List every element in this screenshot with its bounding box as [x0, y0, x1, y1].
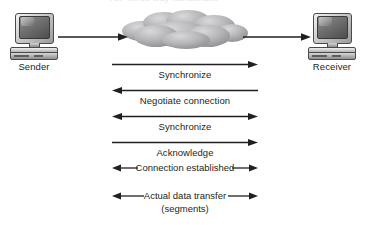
- figure-title-clipped: TCP three-way handshake: [0, 0, 369, 7]
- message-row-2: Negotiate connection: [112, 86, 258, 106]
- floppy-drive-slot: [312, 55, 327, 57]
- message-row-1: Synchronize: [112, 60, 258, 80]
- cd-drive-slot: [34, 55, 43, 57]
- message-label-4: Acknowledge: [112, 147, 258, 158]
- arrow-left-icon: [112, 86, 258, 95]
- network-cloud-icon: [120, 8, 248, 52]
- cd-drive-slot: [332, 55, 341, 57]
- message-sublabel-6: (segments): [112, 203, 258, 214]
- message-label-1: Synchronize: [112, 69, 258, 80]
- message-row-4: Acknowledge: [112, 138, 258, 158]
- message-row-3: Synchronize: [112, 112, 258, 132]
- arrow-right-icon: [112, 138, 258, 147]
- message-label-2: Negotiate connection: [112, 95, 258, 106]
- screen-glare: [21, 17, 34, 26]
- diagram-canvas: TCP three-way handshake Sender Receiver: [0, 0, 369, 225]
- message-row-6: Actual data transfer (segments): [112, 190, 258, 214]
- link-cloud-to-receiver: [243, 28, 311, 38]
- message-label-3: Synchronize: [112, 121, 258, 132]
- endpoint-sender: Sender: [2, 13, 66, 72]
- figure-title-text: TCP three-way handshake: [108, 0, 218, 3]
- screen-glare: [319, 17, 332, 26]
- arrow-right-icon: [228, 190, 258, 202]
- endpoint-receiver: Receiver: [300, 13, 364, 72]
- desktop-computer-icon: [8, 13, 60, 59]
- link-sender-to-cloud: [58, 28, 128, 38]
- arrow-both-icon: [112, 112, 258, 121]
- endpoint-sender-label: Sender: [2, 61, 66, 72]
- floppy-drive-slot: [14, 55, 29, 57]
- message-inline-strip-5: Connection established: [112, 162, 258, 174]
- arrow-right-icon: [232, 162, 258, 174]
- desktop-computer-icon: [306, 13, 358, 59]
- endpoint-receiver-label: Receiver: [300, 61, 364, 72]
- message-inline-strip-6: Actual data transfer: [112, 190, 258, 202]
- arrow-right-icon: [112, 60, 258, 69]
- message-row-5: Connection established: [112, 162, 258, 174]
